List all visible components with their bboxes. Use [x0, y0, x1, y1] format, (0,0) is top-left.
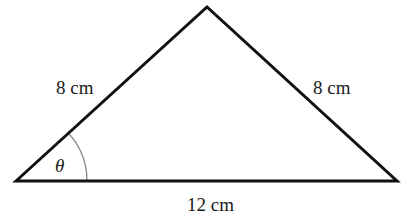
- right-side-label: 8 cm: [313, 77, 351, 98]
- angle-arc: [69, 133, 88, 181]
- angle-theta-label: θ: [55, 155, 64, 176]
- triangle-diagram: 8 cm 8 cm 12 cm θ: [0, 0, 407, 220]
- base-label: 12 cm: [187, 194, 234, 215]
- left-side-label: 8 cm: [56, 77, 94, 98]
